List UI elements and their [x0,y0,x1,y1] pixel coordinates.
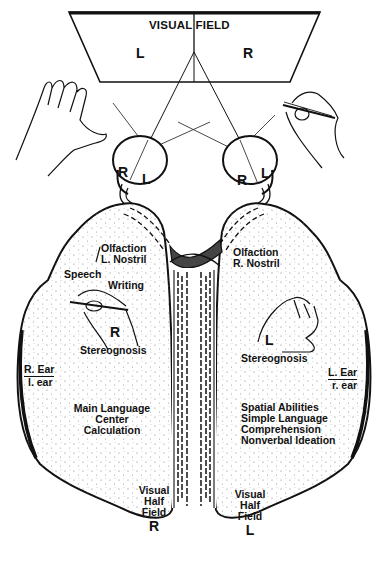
right-hand-writing-icon [283,92,344,168]
left-visual-half-field-label: Visual Half Field R [136,485,172,534]
corpus-callosum [172,268,216,508]
left-stereognosis-label: Stereognosis [80,345,147,356]
right-stereognosis-label: Stereognosis [241,353,308,364]
left-functions-label: Main Language Center Calculation [72,403,152,436]
left-eye-r-label: R [118,165,128,180]
right-olfaction-label: Olfaction R. Nostril [233,247,280,269]
right-ear-label: L. Ear r. ear [328,367,357,391]
optic-nerves [120,184,270,206]
left-eye-l-label: L [142,172,151,187]
left-hand-icon [16,81,106,177]
visual-field-title: VISUAL FIELD [149,20,230,31]
optic-chiasm [170,240,222,268]
visual-field-right-label: R [243,46,253,61]
left-ear-label: R. Ear l. ear [24,364,54,388]
speech-label: Speech [64,269,101,280]
left-olfaction-label: Olfaction L. Nostril [101,243,147,265]
writing-label: Writing [108,280,144,291]
diagram-artwork [0,0,388,564]
left-hemisphere [18,203,174,518]
right-eye-r-label: R [237,173,247,188]
right-eye-l-label: L [261,166,270,181]
right-functions-label: Spatial Abilities Simple Language Compre… [241,402,336,446]
right-hand-l-label: L [265,333,274,348]
right-visual-half-field-label: Visual Half Field L [232,489,268,538]
split-brain-diagram: VISUAL FIELD L R R L R L Olfaction L. No… [0,0,388,564]
visual-field-left-label: L [136,46,145,61]
left-hand-r-label: R [110,325,120,340]
visual-field-screen [69,12,320,165]
